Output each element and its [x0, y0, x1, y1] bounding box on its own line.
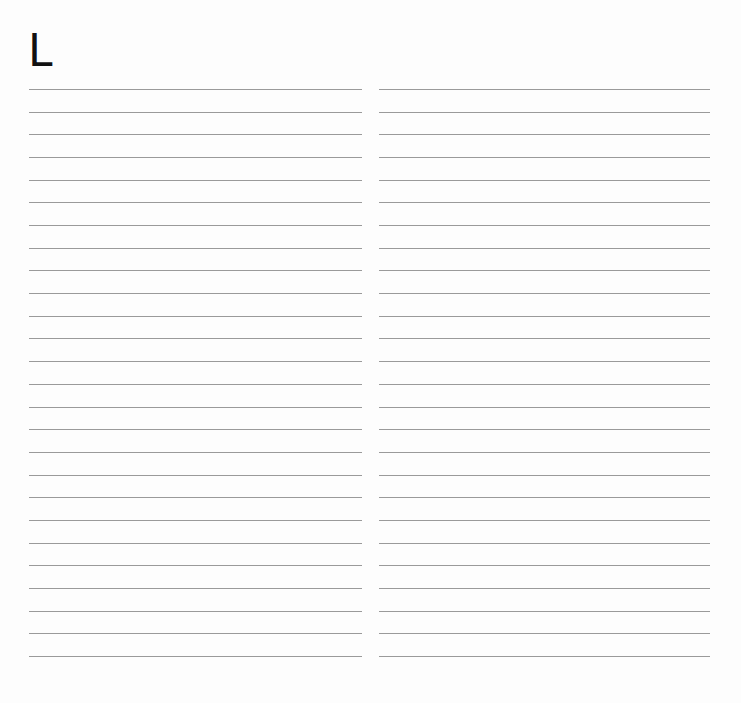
ruled-line [379, 520, 710, 521]
ruled-line [29, 384, 362, 385]
ruled-line [379, 543, 710, 544]
ruled-line [379, 202, 710, 203]
ruled-line [29, 180, 362, 181]
ruled-line [29, 543, 362, 544]
ruled-line [379, 656, 710, 657]
ruled-line [379, 225, 710, 226]
ruled-line [379, 633, 710, 634]
ruled-line [29, 429, 362, 430]
ruled-line [379, 338, 710, 339]
ruled-line [379, 588, 710, 589]
ruled-line [29, 89, 362, 90]
ruled-line [29, 407, 362, 408]
ruled-line [379, 248, 710, 249]
ruled-line [29, 565, 362, 566]
ruled-line [379, 270, 710, 271]
ruled-line [379, 452, 710, 453]
ruled-line [29, 316, 362, 317]
ruled-line [379, 475, 710, 476]
ruled-line [379, 316, 710, 317]
ruled-line [379, 384, 710, 385]
ruled-line [29, 656, 362, 657]
ruled-line [29, 588, 362, 589]
ruled-line [379, 134, 710, 135]
ruled-line [379, 180, 710, 181]
ruled-line [379, 361, 710, 362]
ruled-line [379, 611, 710, 612]
ruled-line [379, 497, 710, 498]
ruled-line [29, 202, 362, 203]
ruled-line [29, 633, 362, 634]
ruled-line [29, 475, 362, 476]
ruled-line [29, 157, 362, 158]
ruled-line [29, 293, 362, 294]
ruled-line [29, 134, 362, 135]
ruled-line [29, 112, 362, 113]
ruled-line [379, 407, 710, 408]
ruled-line [29, 338, 362, 339]
page-heading-letter: L [28, 26, 53, 76]
ruled-line [379, 429, 710, 430]
ruled-line [29, 611, 362, 612]
ruled-line [29, 270, 362, 271]
ruled-line [379, 565, 710, 566]
ruled-line [29, 452, 362, 453]
ruled-line [29, 225, 362, 226]
ruled-line [29, 520, 362, 521]
ruled-line [29, 497, 362, 498]
ruled-line [379, 293, 710, 294]
ruled-line [379, 112, 710, 113]
ruled-line [379, 157, 710, 158]
ruled-line [29, 361, 362, 362]
ruled-line [29, 248, 362, 249]
ruled-line [379, 89, 710, 90]
